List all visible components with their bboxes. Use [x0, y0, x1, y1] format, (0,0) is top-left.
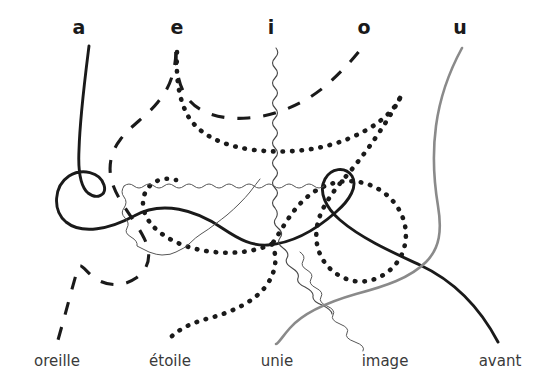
curve-wavy-blob-path: [124, 184, 324, 188]
curve-dotted-etoile-tail-path: [170, 244, 275, 338]
diagram-canvas: a e i o u oreille étoile unie image avan…: [0, 0, 549, 392]
curve-dotted-etoile-path: [143, 179, 272, 253]
word-label-etoile: étoile: [149, 354, 191, 369]
word-label-unie: unie: [261, 354, 293, 369]
curve-e-lower-dashed-path: [58, 52, 176, 340]
vowel-label-e: e: [171, 18, 184, 37]
word-label-oreille: oreille: [34, 354, 80, 369]
vowel-label-a: a: [73, 18, 86, 37]
word-label-image: image: [362, 354, 409, 369]
curve-e-upper-dashed-path: [176, 49, 361, 118]
curve-e-dotted-path: [177, 52, 400, 152]
word-label-avant: avant: [479, 354, 522, 369]
vowel-label-u: u: [453, 18, 467, 37]
curve-wavy-blob-lower-path: [122, 179, 260, 255]
vowel-label-o: o: [357, 18, 370, 37]
curve-u-gray-path: [276, 48, 462, 344]
vowel-label-i: i: [268, 18, 275, 37]
curve-dotted-sweep-path: [272, 98, 406, 282]
curve-svg: [0, 0, 549, 392]
